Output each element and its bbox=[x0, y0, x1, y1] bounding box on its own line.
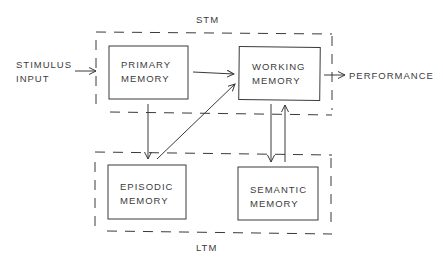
arrow-primary-to-working bbox=[193, 72, 234, 74]
ltm-label: LTM bbox=[196, 241, 217, 254]
semantic-memory-label: SEMANTIC MEMORY bbox=[250, 183, 307, 210]
stm-label: STM bbox=[196, 13, 219, 26]
primary-memory-line1: PRIMARY bbox=[121, 58, 171, 72]
diagram-graphics bbox=[0, 0, 443, 265]
working-memory-label: WORKING MEMORY bbox=[252, 60, 305, 87]
episodic-memory-line1: EPISODIC bbox=[120, 180, 173, 194]
semantic-memory-line2: MEMORY bbox=[250, 197, 307, 211]
arrow-episodic-to-working bbox=[157, 84, 235, 159]
memory-model-diagram: STM LTM STIMULUS INPUT PRIMARY MEMORY WO… bbox=[0, 0, 443, 265]
stimulus-input-label: STIMULUS INPUT bbox=[16, 58, 72, 85]
primary-memory-line2: MEMORY bbox=[121, 72, 171, 86]
episodic-memory-line2: MEMORY bbox=[120, 194, 173, 208]
semantic-memory-line1: SEMANTIC bbox=[250, 183, 307, 197]
working-memory-line2: MEMORY bbox=[252, 74, 305, 88]
primary-memory-label: PRIMARY MEMORY bbox=[121, 58, 171, 85]
episodic-memory-label: EPISODIC MEMORY bbox=[120, 180, 173, 207]
stimulus-input-line2: INPUT bbox=[16, 72, 72, 86]
stimulus-input-line1: STIMULUS bbox=[16, 58, 72, 72]
working-memory-line1: WORKING bbox=[252, 60, 305, 74]
performance-label: PERFORMANCE bbox=[349, 69, 434, 82]
